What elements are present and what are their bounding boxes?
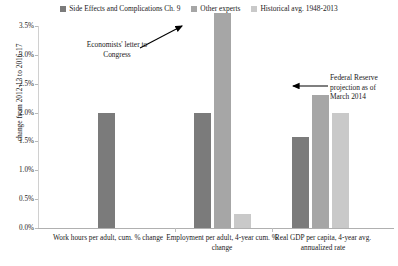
bar-2-1 — [312, 95, 329, 228]
bar-2-0 — [292, 137, 309, 228]
annotation-economists-letter: Economists' letter to Congress — [74, 40, 160, 59]
plot-area: change from 2012-13 to 2016-17 0.0%0.5%1… — [0, 0, 398, 266]
category-label-2: Real GDP per capita, 4-year avg. annuali… — [262, 233, 384, 252]
category-separator-1 — [175, 228, 176, 232]
bar-1-0 — [194, 113, 211, 228]
chart-container: Side Effects and Complications Ch. 9 Oth… — [0, 0, 398, 266]
category-label-0: Work hours per adult, cum. % change — [52, 233, 164, 243]
bar-1-1 — [214, 13, 231, 228]
bar-2-2 — [332, 113, 349, 228]
category-separator-2 — [272, 228, 273, 232]
bars-layer — [0, 0, 398, 228]
bar-1-2 — [234, 214, 251, 228]
bar-0-0 — [98, 113, 115, 228]
annotation-fed-projection: Federal Reserve projection as of March 2… — [330, 73, 396, 102]
x-axis-line — [38, 228, 394, 229]
